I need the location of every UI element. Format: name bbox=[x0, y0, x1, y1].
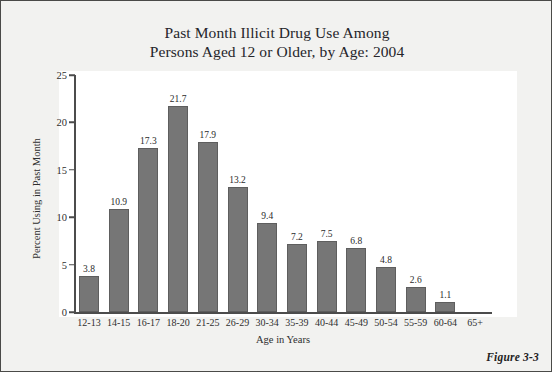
y-tick-mark bbox=[69, 216, 75, 218]
bar-value-label: 3.8 bbox=[83, 264, 95, 274]
bar-group bbox=[465, 75, 485, 312]
bar-value-label: 9.4 bbox=[261, 211, 273, 221]
bar-group: 3.8 bbox=[79, 75, 99, 312]
bar-value-label: 10.9 bbox=[110, 197, 127, 207]
y-tick-mark bbox=[69, 264, 75, 266]
x-tick-label: 50-54 bbox=[374, 317, 397, 328]
x-tick-label: 21-25 bbox=[196, 317, 219, 328]
bar-value-label: 2.6 bbox=[410, 275, 422, 285]
bar-group: 4.8 bbox=[376, 75, 396, 312]
bar bbox=[138, 148, 158, 312]
x-tick-label: 45-49 bbox=[345, 317, 368, 328]
x-tick-label: 12-13 bbox=[77, 317, 100, 328]
chart-title-line-2: Persons Aged 12 or Older, by Age: 2004 bbox=[1, 42, 552, 61]
bar-group: 6.8 bbox=[346, 75, 366, 312]
bar-group: 21.7 bbox=[168, 75, 188, 312]
y-tick-mark bbox=[69, 74, 75, 76]
bar bbox=[287, 244, 307, 312]
bar bbox=[346, 248, 366, 312]
bar bbox=[109, 209, 129, 312]
x-tick-label: 16-17 bbox=[137, 317, 160, 328]
bar bbox=[376, 267, 396, 313]
bar-group: 7.5 bbox=[317, 75, 337, 312]
bar-group: 1.1 bbox=[435, 75, 455, 312]
chart-title: Past Month Illicit Drug Use Among Person… bbox=[1, 23, 552, 61]
bar-group: 9.4 bbox=[257, 75, 277, 312]
y-tick-mark bbox=[69, 122, 75, 124]
bar-group: 13.2 bbox=[228, 75, 248, 312]
bar bbox=[228, 187, 248, 312]
bar-group: 7.2 bbox=[287, 75, 307, 312]
bar-value-label: 7.5 bbox=[321, 229, 333, 239]
figure-caption: Figure 3-3 bbox=[486, 351, 539, 363]
chart-title-line-1: Past Month Illicit Drug Use Among bbox=[1, 23, 552, 42]
bar bbox=[168, 106, 188, 312]
x-tick-label: 26-29 bbox=[226, 317, 249, 328]
bar-value-label: 6.8 bbox=[350, 236, 362, 246]
bar bbox=[406, 287, 426, 312]
figure-container: Past Month Illicit Drug Use Among Person… bbox=[0, 0, 552, 372]
x-axis-line bbox=[74, 312, 492, 314]
y-tick-label: 0 bbox=[1, 307, 67, 318]
y-axis-title: Percent Using in Past Month bbox=[31, 99, 42, 299]
bar bbox=[79, 276, 99, 312]
bar-value-label: 17.3 bbox=[140, 136, 157, 146]
bar-group: 2.6 bbox=[406, 75, 426, 312]
x-tick-label: 18-20 bbox=[166, 317, 189, 328]
bar-value-label: 1.1 bbox=[439, 290, 451, 300]
x-tick-label: 55-59 bbox=[404, 317, 427, 328]
bar-group: 17.3 bbox=[138, 75, 158, 312]
bar bbox=[257, 223, 277, 312]
y-tick-mark bbox=[69, 311, 75, 313]
bar-value-label: 13.2 bbox=[229, 175, 246, 185]
bar-value-label: 7.2 bbox=[291, 232, 303, 242]
x-tick-label: 60-64 bbox=[434, 317, 457, 328]
y-tick-mark bbox=[69, 169, 75, 171]
bar bbox=[198, 142, 218, 312]
x-tick-label: 35-39 bbox=[285, 317, 308, 328]
x-tick-label: 30-34 bbox=[256, 317, 279, 328]
y-tick-label: 25 bbox=[1, 70, 67, 81]
bar bbox=[317, 241, 337, 312]
bar-value-label: 4.8 bbox=[380, 255, 392, 265]
x-tick-label: 65+ bbox=[467, 317, 483, 328]
bar-group: 17.9 bbox=[198, 75, 218, 312]
bar-value-label: 21.7 bbox=[170, 94, 187, 104]
bar-group: 10.9 bbox=[109, 75, 129, 312]
bar bbox=[435, 302, 455, 312]
x-axis-title: Age in Years bbox=[74, 334, 492, 345]
x-tick-label: 40-44 bbox=[315, 317, 338, 328]
bar-value-label: 17.9 bbox=[199, 130, 216, 140]
x-tick-label: 14-15 bbox=[107, 317, 130, 328]
y-axis-line bbox=[74, 75, 76, 313]
